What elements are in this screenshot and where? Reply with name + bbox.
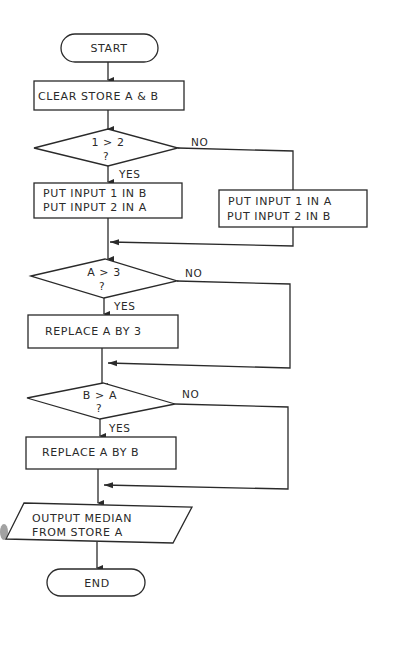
output-line-1: OUTPUT MEDIAN <box>32 512 132 525</box>
scan-smudge <box>0 524 8 540</box>
decision-1-gt-2: 1 > 2 ? <box>34 129 178 166</box>
replace-a-by-b-label: REPLACE A BY B <box>42 446 139 459</box>
decision-3-yes-label: YES <box>108 422 131 434</box>
output-median-io: OUTPUT MEDIAN FROM STORE A <box>6 503 192 543</box>
decision-2-yes-label: YES <box>113 300 136 312</box>
replace-a-by-b-process: REPLACE A BY B <box>26 437 176 469</box>
decision-3-no-label: NO <box>182 388 199 400</box>
start-label: START <box>91 42 128 55</box>
decision-2-condition: A > 3 <box>87 266 121 279</box>
decision-1-question: ? <box>103 150 109 162</box>
put-input-no-process: PUT INPUT 1 IN A PUT INPUT 2 IN B <box>219 190 367 227</box>
flowchart: START CLEAR STORE A & B 1 > 2 ? NO YES P… <box>0 0 407 647</box>
decision-1-condition: 1 > 2 <box>91 136 124 149</box>
decision-1-yes-label: YES <box>118 168 141 180</box>
no-box-line-2: PUT INPUT 2 IN B <box>227 210 331 223</box>
decision-2-a-gt-3: A > 3 ? <box>31 259 177 298</box>
output-line-2: FROM STORE A <box>32 526 123 539</box>
end-label: END <box>84 577 109 590</box>
decision-2-question: ? <box>99 280 105 292</box>
connector-no <box>178 148 293 190</box>
no-box-line-1: PUT INPUT 1 IN A <box>228 195 332 208</box>
start-terminator: START <box>61 34 158 62</box>
decision-3-question: ? <box>96 402 102 414</box>
decision-3-b-gt-a: B > A ? <box>27 383 175 419</box>
clear-store-process: CLEAR STORE A & B <box>34 81 184 110</box>
end-terminator: END <box>47 569 145 596</box>
replace-a-by-3-process: REPLACE A BY 3 <box>28 315 178 348</box>
decision-1-no-label: NO <box>191 136 208 148</box>
replace-a-by-3-label: REPLACE A BY 3 <box>45 325 142 338</box>
decision-2-no-label: NO <box>185 267 202 279</box>
clear-store-label: CLEAR STORE A & B <box>38 90 159 103</box>
yes-box-line-1: PUT INPUT 1 IN B <box>43 187 147 200</box>
yes-box-line-2: PUT INPUT 2 IN A <box>43 201 147 214</box>
put-input-yes-process: PUT INPUT 1 IN B PUT INPUT 2 IN A <box>34 183 182 218</box>
decision-3-condition: B > A <box>83 389 117 402</box>
connector-merge <box>110 227 293 246</box>
